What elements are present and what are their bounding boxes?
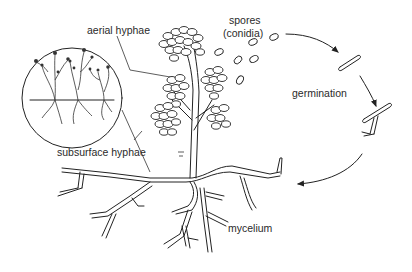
germination-sequence [286,34,391,184]
label-conidia: (conidia) [223,27,263,39]
fungal-life-cycle-diagram: aerial hyphae spores (conidia) germinati… [0,0,412,272]
mycelium-network [58,158,282,252]
label-germination: germination [292,87,347,99]
label-subsurface-hyphae: subsurface hyphae [57,146,146,158]
aerial-hyphae-leader [117,36,130,70]
magnified-inset [22,48,122,148]
subsurface-hyphae-leader [122,110,150,172]
label-aerial-hyphae: aerial hyphae [87,24,150,36]
subsurface-hyphae-tick [134,131,142,140]
label-mycelium: mycelium [228,222,272,234]
label-spores: spores [229,14,261,26]
